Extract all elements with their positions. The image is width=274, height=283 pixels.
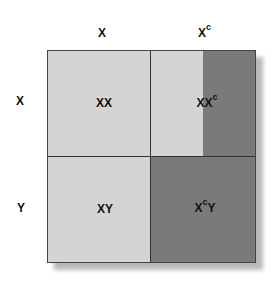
cell-xcy-text: X	[194, 201, 202, 215]
horizontal-divider	[48, 156, 255, 157]
cell-xxc-light	[151, 51, 203, 156]
complement-superscript: c	[206, 22, 211, 32]
row-header-x: X	[16, 95, 24, 107]
column-header-x-complement: Xc	[198, 25, 211, 39]
cell-xxc-text: XX	[196, 96, 212, 110]
venn-grid: XX XXc XY XcY	[47, 50, 256, 263]
cell-xy-text: XY	[97, 202, 113, 216]
cell-xx: XX	[48, 51, 150, 156]
cell-xcy: XcY	[151, 157, 255, 262]
cell-xxc-label: XXc	[196, 94, 217, 110]
cell-xy-label: XY	[97, 202, 113, 216]
row-header-x-text: X	[16, 94, 24, 108]
cell-xcy-label: XcY	[194, 199, 215, 215]
cell-xx-text: XX	[96, 96, 112, 110]
row-header-y: Y	[17, 202, 25, 214]
column-header-x-complement-text: X	[198, 26, 206, 40]
cell-xy: XY	[48, 157, 150, 262]
column-header-x: X	[98, 27, 106, 39]
cell-xxc-superscript: c	[213, 92, 218, 102]
cell-xx-label: XX	[96, 96, 112, 110]
row-header-y-text: Y	[17, 201, 25, 215]
cell-xcy-suffix: Y	[208, 201, 216, 215]
column-header-x-text: X	[98, 26, 106, 40]
cell-xcy-superscript: c	[202, 197, 207, 207]
